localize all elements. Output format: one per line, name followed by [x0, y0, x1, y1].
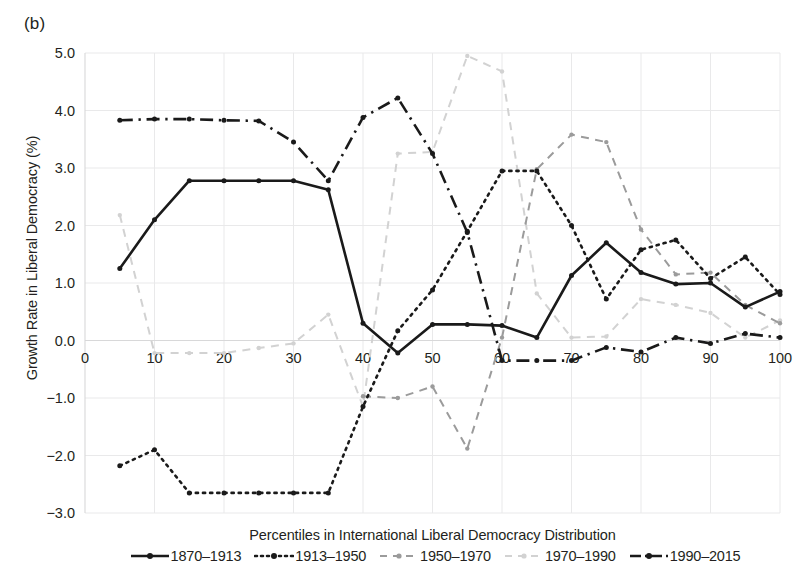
series-marker-1913-1950: [326, 490, 331, 495]
series-marker-1913-1950: [534, 168, 539, 173]
series-marker-1990-2015: [256, 118, 261, 123]
legend-item-1970-1990[interactable]: 1970–1990: [504, 548, 616, 564]
series-marker-1913-1950: [430, 287, 435, 292]
series-marker-1913-1950: [152, 447, 157, 452]
series-marker-1990-2015: [500, 358, 505, 363]
series-marker-1990-2015: [361, 115, 366, 120]
series-marker-1990-2015: [395, 95, 400, 100]
series-marker-1950-1970: [778, 321, 782, 325]
series-marker-1950-1970: [708, 270, 712, 274]
y-tick-label: −3.0: [46, 505, 75, 521]
series-marker-1950-1970: [500, 335, 504, 339]
series-marker-1950-1970: [465, 446, 469, 450]
series-line-1970-1990: [120, 56, 780, 407]
series-line-1870-1913: [120, 181, 780, 353]
legend-label: 1913–1950: [295, 548, 366, 564]
series-marker-1870-1913: [326, 187, 331, 192]
y-tick-label: −2.0: [46, 448, 75, 464]
legend-item-1870-1913[interactable]: 1870–1913: [130, 548, 242, 564]
series-marker-1970-1990: [569, 335, 573, 339]
series-marker-1913-1950: [117, 463, 122, 468]
legend-label: 1870–1913: [171, 548, 242, 564]
series-marker-1913-1950: [187, 490, 192, 495]
series-marker-1970-1990: [500, 69, 504, 73]
series-marker-1970-1990: [708, 311, 712, 315]
series-marker-1990-2015: [673, 335, 678, 340]
series-marker-1913-1950: [256, 490, 261, 495]
series-marker-1913-1950: [395, 328, 400, 333]
series-marker-1990-2015: [569, 358, 574, 363]
series-marker-1913-1950: [673, 237, 678, 242]
series-line-1990-2015: [120, 98, 780, 361]
series-marker-1950-1970: [569, 132, 573, 136]
legend-item-1950-1970[interactable]: 1950–1970: [379, 548, 491, 564]
series-marker-1990-2015: [639, 350, 644, 355]
series-marker-1970-1990: [187, 351, 191, 355]
x-tick-label: 0: [81, 350, 89, 366]
series-marker-1990-2015: [326, 178, 331, 183]
legend-swatch-1990-2015: [629, 549, 669, 563]
legend-label: 1970–1990: [545, 548, 616, 564]
series-marker-1990-2015: [291, 140, 296, 145]
y-tick-label: 4.0: [55, 103, 75, 119]
series-marker-1990-2015: [778, 335, 783, 340]
series-marker-1870-1913: [569, 273, 574, 278]
x-tick-label: 50: [424, 350, 440, 366]
x-tick-label: 30: [285, 350, 301, 366]
series-marker-1950-1970: [674, 272, 678, 276]
legend-item-1990-2015[interactable]: 1990–2015: [629, 548, 741, 564]
series-marker-1990-2015: [465, 230, 470, 235]
series-marker-1870-1913: [187, 178, 192, 183]
legend-item-1913-1950[interactable]: 1913–1950: [254, 548, 366, 564]
series-marker-1870-1913: [430, 322, 435, 327]
series-marker-1990-2015: [117, 118, 122, 123]
y-tick-label: 2.0: [55, 218, 75, 234]
series-marker-1970-1990: [118, 213, 122, 217]
series-marker-1990-2015: [534, 358, 539, 363]
series-marker-1870-1913: [500, 323, 505, 328]
x-tick-label: 40: [355, 350, 371, 366]
series-marker-1990-2015: [743, 331, 748, 336]
series-marker-1870-1913: [222, 178, 227, 183]
series-marker-1870-1913: [639, 270, 644, 275]
series-marker-1990-2015: [222, 118, 227, 123]
figure-panel-b: (b) Growth Rate in Liberal Democracy (%)…: [0, 0, 810, 584]
y-tick-label: 1.0: [55, 275, 75, 291]
series-marker-1870-1913: [395, 351, 400, 356]
series-marker-1950-1970: [430, 384, 434, 388]
series-marker-1950-1970: [604, 140, 608, 144]
series-marker-1870-1913: [708, 281, 713, 286]
y-tick-label: −1.0: [46, 390, 75, 406]
series-marker-1970-1990: [535, 291, 539, 295]
line-chart-plot: 5.04.03.02.01.00.0−1.0−2.0−3.00102030405…: [0, 0, 810, 584]
series-marker-1970-1990: [639, 297, 643, 301]
series-marker-1913-1950: [743, 255, 748, 260]
legend-swatch-1870-1913: [130, 549, 170, 563]
series-marker-1970-1990: [222, 351, 226, 355]
series-marker-1870-1913: [673, 282, 678, 287]
series-marker-1970-1990: [465, 54, 469, 58]
series-marker-1970-1990: [152, 351, 156, 355]
series-marker-1913-1950: [569, 223, 574, 228]
series-marker-1970-1990: [257, 346, 261, 350]
legend-label: 1990–2015: [670, 548, 741, 564]
y-tick-label: 3.0: [55, 160, 75, 176]
series-marker-1870-1913: [534, 335, 539, 340]
series-marker-1913-1950: [639, 247, 644, 252]
series-marker-1950-1970: [361, 394, 365, 398]
series-marker-1970-1990: [604, 334, 608, 338]
series-marker-1970-1990: [291, 341, 295, 345]
x-tick-label: 90: [702, 350, 718, 366]
series-marker-1970-1990: [674, 303, 678, 307]
series-marker-1870-1913: [604, 240, 609, 245]
series-marker-1870-1913: [152, 217, 157, 222]
y-tick-label: 0.0: [55, 333, 75, 349]
x-tick-label: 100: [768, 350, 792, 366]
series-marker-1990-2015: [152, 117, 157, 122]
legend-swatch-1913-1950: [254, 549, 294, 563]
y-tick-label: 5.0: [55, 45, 75, 61]
x-axis-title: Percentiles in International Liberal Dem…: [85, 527, 780, 543]
series-marker-1870-1913: [778, 289, 783, 294]
series-marker-1913-1950: [708, 276, 713, 281]
series-marker-1970-1990: [326, 312, 330, 316]
